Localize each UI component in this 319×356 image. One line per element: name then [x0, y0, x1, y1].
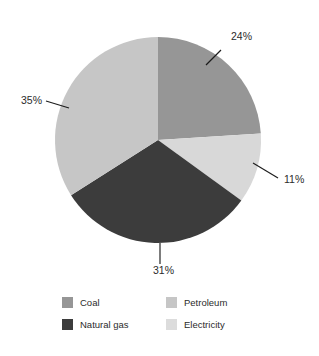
pie-slice-coal	[158, 37, 261, 140]
legend-swatch-petroleum	[166, 297, 177, 308]
legend-label-petroleum: Petroleum	[184, 297, 227, 308]
leader-line-electricity	[253, 163, 278, 178]
pie-chart-figure: 24%11%31%35% CoalPetroleumNatural gasEle…	[0, 0, 319, 356]
pie-slices-group	[55, 37, 261, 243]
pie-value-label-petroleum: 35%	[21, 94, 42, 106]
legend-item-electricity[interactable]: Electricity	[166, 314, 258, 334]
legend-swatch-natural-gas	[62, 319, 73, 330]
pie-value-label-natural-gas: 31%	[153, 264, 174, 276]
legend-swatch-electricity	[166, 319, 177, 330]
legend-label-natural-gas: Natural gas	[80, 319, 129, 330]
legend-swatch-coal	[62, 297, 73, 308]
pie-value-label-coal: 24%	[231, 30, 252, 42]
legend-label-electricity: Electricity	[184, 319, 225, 330]
chart-legend: CoalPetroleumNatural gasElectricity	[62, 291, 258, 335]
legend-item-natural-gas[interactable]: Natural gas	[62, 314, 154, 334]
legend-item-coal[interactable]: Coal	[62, 292, 154, 312]
pie-value-label-electricity: 11%	[284, 173, 304, 185]
legend-item-petroleum[interactable]: Petroleum	[166, 292, 258, 312]
legend-label-coal: Coal	[80, 297, 100, 308]
